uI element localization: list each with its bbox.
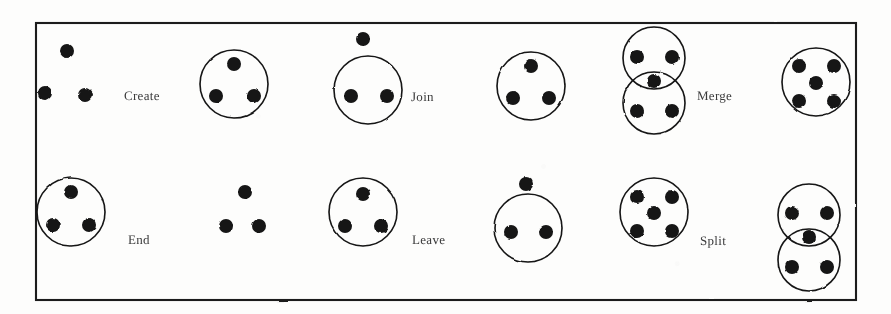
operation-label-merge: Merge (697, 88, 732, 104)
end-after-member-dot-2 (219, 219, 233, 233)
figure-border (36, 23, 856, 300)
split-before-member-dot-1 (630, 190, 644, 204)
merge-before-member-dot-1 (630, 50, 644, 64)
operation-split (620, 178, 840, 291)
join-before-group-circle-1 (334, 56, 402, 124)
operation-split-before-state (620, 178, 688, 246)
split-after-member-dot-2 (820, 206, 834, 220)
split-before-member-dot-3 (647, 206, 661, 220)
leave-before-member-dot-1 (356, 187, 370, 201)
operation-split-after-state (778, 184, 840, 291)
create-after-member-dot-2 (209, 89, 223, 103)
join-after-member-dot-1 (524, 59, 538, 73)
operation-merge (623, 27, 850, 134)
merge-after-member-dot-2 (827, 59, 841, 73)
merge-before-member-dot-2 (665, 50, 679, 64)
split-before-member-dot-2 (665, 190, 679, 204)
split-after-member-dot-3 (802, 230, 816, 244)
end-before-member-dot-2 (46, 218, 60, 232)
operation-end-after-state (219, 185, 266, 233)
operation-create (38, 44, 268, 118)
operation-leave (329, 177, 562, 262)
operations-diagram (0, 0, 891, 314)
operation-join-before-state (334, 32, 402, 124)
join-after-member-dot-2 (506, 91, 520, 105)
merge-before-member-dot-4 (630, 104, 644, 118)
merge-before-member-dot-5 (665, 104, 679, 118)
create-before-member-dot-1 (60, 44, 74, 58)
operation-label-split: Split (700, 233, 726, 249)
operation-create-before-state (38, 44, 92, 102)
operation-merge-after-state (782, 48, 850, 116)
operation-end (37, 178, 266, 246)
merge-after-member-dot-4 (792, 94, 806, 108)
join-before-member-dot-1 (344, 89, 358, 103)
operation-end-before-state (37, 178, 105, 246)
diagram-border-rect (36, 23, 856, 300)
operations-shapes (37, 27, 850, 291)
leave-after-group-circle-1 (494, 194, 562, 262)
end-after-member-dot-3 (252, 219, 266, 233)
create-after-member-dot-1 (227, 57, 241, 71)
leave-before-member-dot-2 (338, 219, 352, 233)
leave-after-member-dot-1 (504, 225, 518, 239)
split-after-member-dot-1 (785, 206, 799, 220)
leave-after-member-dot-3 (519, 177, 533, 191)
merge-after-member-dot-5 (827, 94, 841, 108)
leave-before-member-dot-3 (374, 219, 388, 233)
split-before-member-dot-4 (630, 224, 644, 238)
end-after-member-dot-1 (238, 185, 252, 199)
split-after-member-dot-4 (785, 260, 799, 274)
operation-merge-before-state (623, 27, 685, 134)
operation-join-after-state (497, 52, 565, 120)
split-after-member-dot-5 (820, 260, 834, 274)
join-before-member-dot-3 (356, 32, 370, 46)
create-after-member-dot-3 (247, 89, 261, 103)
create-before-member-dot-2 (38, 86, 52, 100)
end-before-member-dot-1 (64, 185, 78, 199)
leave-after-member-dot-2 (539, 225, 553, 239)
join-before-member-dot-2 (380, 89, 394, 103)
join-after-member-dot-3 (542, 91, 556, 105)
merge-after-member-dot-3 (809, 76, 823, 90)
operation-create-after-state (200, 50, 268, 118)
operation-join (334, 32, 565, 124)
merge-before-member-dot-3 (647, 74, 661, 88)
operation-label-create: Create (124, 88, 160, 104)
operation-leave-before-state (329, 178, 397, 246)
figure-canvas: CreateJoinMergeEndLeaveSplit (0, 0, 891, 314)
operation-label-join: Join (411, 89, 434, 105)
merge-after-member-dot-1 (792, 59, 806, 73)
operation-label-leave: Leave (412, 232, 445, 248)
operation-leave-after-state (494, 177, 562, 262)
end-before-member-dot-3 (82, 218, 96, 232)
operation-label-end: End (128, 232, 150, 248)
create-before-member-dot-3 (78, 88, 92, 102)
split-before-member-dot-5 (665, 224, 679, 238)
